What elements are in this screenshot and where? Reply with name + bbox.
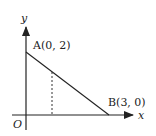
point-b-label: B(3, 0) — [108, 96, 146, 109]
origin-label: O — [13, 118, 22, 131]
diagram-canvas: y x O A(0, 2) B(3, 0) — [0, 0, 156, 136]
y-axis-label: y — [20, 12, 28, 25]
coordinate-diagram: y x O A(0, 2) B(3, 0) — [0, 0, 156, 136]
segment-ab — [26, 52, 109, 115]
x-axis-label: x — [138, 109, 145, 122]
point-a-label: A(0, 2) — [32, 39, 71, 52]
